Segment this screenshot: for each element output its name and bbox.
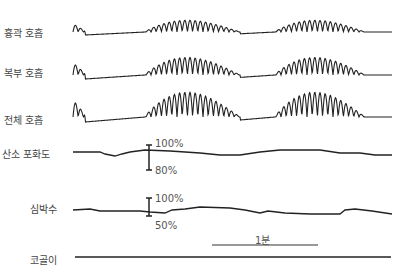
total-trace bbox=[73, 92, 392, 122]
spo2-scale-top: 100% bbox=[155, 138, 184, 149]
channel-label-thoracic: 흉곽 호흡 bbox=[4, 25, 43, 40]
spo2-scale-bar bbox=[146, 145, 152, 170]
hr-scale-top: 100% bbox=[155, 193, 184, 204]
abdominal-trace bbox=[73, 58, 392, 80]
channel-label-spo2: 산소 포화도 bbox=[2, 146, 50, 161]
spo2-trace bbox=[73, 150, 392, 156]
thoracic-trace bbox=[73, 20, 392, 35]
spo2-scale-bottom: 80% bbox=[155, 165, 177, 176]
hr-scale-bottom: 50% bbox=[155, 220, 177, 231]
channel-label-heart-rate: 심박수 bbox=[30, 201, 57, 216]
channel-label-abdominal: 복부 호흡 bbox=[4, 65, 43, 80]
time-scale-label: 1분 bbox=[255, 232, 270, 247]
heart-rate-trace bbox=[73, 207, 392, 214]
hr-scale-bar bbox=[146, 198, 152, 216]
channel-label-total: 전체 호흡 bbox=[4, 112, 43, 127]
trace-canvas bbox=[0, 0, 399, 273]
channel-label-snore: 코골이 bbox=[30, 252, 57, 267]
